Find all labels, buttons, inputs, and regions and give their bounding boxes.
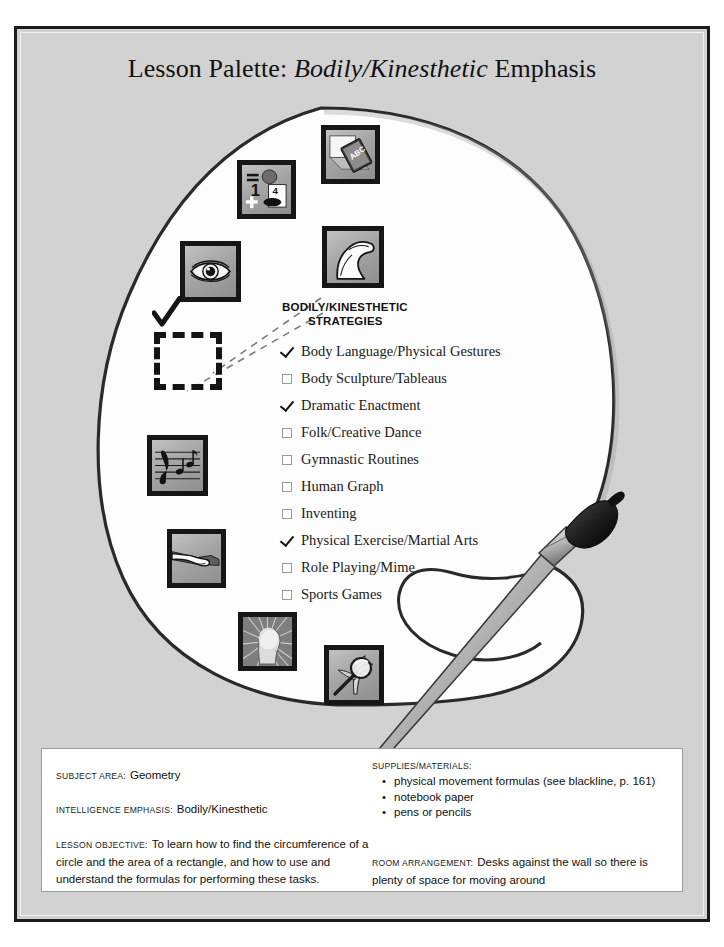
tile-interpersonal[interactable]	[167, 529, 226, 588]
lesson-palette-page: Lesson Palette: Bodily/Kinesthetic Empha…	[0, 0, 724, 947]
tile-intrapersonal[interactable]	[238, 612, 297, 671]
strategy-label: Inventing	[301, 505, 357, 522]
strategy-row[interactable]: Physical Exercise/Martial Arts	[282, 527, 522, 554]
intelligence-emphasis-value: Bodily/Kinesthetic	[177, 803, 268, 815]
supplies-item: physical movement formulas (see blacklin…	[394, 774, 672, 790]
tile-bodily-kinesthetic[interactable]	[322, 226, 384, 288]
strategies-list: Body Language/Physical GesturesBody Scul…	[282, 338, 522, 608]
strategy-row[interactable]: Human Graph	[282, 473, 522, 500]
empty-strategy-placeholder-box[interactable]	[154, 332, 222, 390]
strategy-label: Human Graph	[301, 478, 384, 495]
intelligence-emphasis-field: INTELLIGENCE EMPHASIS: Bodily/Kinestheti…	[56, 799, 268, 817]
strategies-panel: BODILY/KINESTHETIC STRATEGIES Body Langu…	[282, 300, 522, 608]
subject-area-label: SUBJECT AREA:	[56, 771, 126, 781]
tile-naturalist[interactable]	[324, 645, 384, 705]
strategy-checkbox[interactable]	[282, 428, 292, 438]
subject-area-value: Geometry	[130, 769, 181, 781]
strategy-row[interactable]: Body Sculpture/Tableaus	[282, 365, 522, 392]
abc-book-icon: ABC	[326, 130, 375, 179]
room-arrangement-label: ROOM ARRANGEMENT:	[372, 858, 473, 868]
flexed-arm-icon	[327, 231, 379, 283]
strategy-row[interactable]: Dramatic Enactment	[282, 392, 522, 419]
strategy-checkbox[interactable]	[282, 509, 292, 519]
strategies-heading-line2: STRATEGIES	[282, 314, 522, 328]
tile-musical-rhythmic[interactable]	[147, 435, 208, 496]
strategy-row[interactable]: Role Playing/Mime	[282, 554, 522, 581]
strategy-row[interactable]: Gymnastic Routines	[282, 446, 522, 473]
strategy-label: Body Sculpture/Tableaus	[301, 370, 447, 387]
subject-area-field: SUBJECT AREA: Geometry	[56, 765, 180, 783]
room-arrangement-field: ROOM ARRANGEMENT: Desks against the wall…	[372, 853, 672, 888]
math-symbols-icon: 1 4	[242, 165, 291, 214]
lesson-objective-field: LESSON OBJECTIVE: To learn how to find t…	[56, 835, 376, 887]
strategy-checkbox-checked[interactable]	[282, 347, 292, 357]
tile-verbal-linguistic[interactable]: ABC	[321, 125, 380, 184]
strategy-row[interactable]: Inventing	[282, 500, 522, 527]
supplies-materials-list: physical movement formulas (see blacklin…	[372, 774, 672, 821]
supplies-materials-label: SUPPLIES/MATERIALS:	[372, 761, 672, 771]
supplies-item: notebook paper	[394, 790, 672, 806]
strategy-row[interactable]: Body Language/Physical Gestures	[282, 338, 522, 365]
strategy-checkbox-checked[interactable]	[282, 536, 292, 546]
tile-visual-spatial[interactable]	[180, 241, 241, 302]
strategy-checkbox[interactable]	[282, 482, 292, 492]
strategies-heading-line1: BODILY/KINESTHETIC	[282, 301, 408, 313]
strategy-label: Body Language/Physical Gestures	[301, 343, 501, 360]
supplies-item: pens or pencils	[394, 805, 672, 821]
lesson-info-panel: SUBJECT AREA: Geometry INTELLIGENCE EMPH…	[41, 748, 683, 892]
music-staff-icon	[152, 440, 203, 491]
selected-checkmark-icon	[152, 296, 182, 330]
strategy-label: Physical Exercise/Martial Arts	[301, 532, 478, 549]
radiant-head-icon	[243, 617, 292, 666]
strategies-heading: BODILY/KINESTHETIC STRATEGIES	[282, 300, 522, 328]
strategy-label: Folk/Creative Dance	[301, 424, 421, 441]
lesson-objective-label: LESSON OBJECTIVE:	[56, 840, 148, 850]
strategy-checkbox[interactable]	[282, 590, 292, 600]
strategy-checkbox[interactable]	[282, 374, 292, 384]
eye-icon	[185, 246, 236, 297]
svg-text:4: 4	[272, 185, 278, 196]
tile-logical-mathematical[interactable]: 1 4	[237, 160, 296, 219]
strategy-checkbox[interactable]	[282, 455, 292, 465]
strategy-label: Sports Games	[301, 586, 382, 603]
strategy-row[interactable]: Folk/Creative Dance	[282, 419, 522, 446]
strategy-checkbox[interactable]	[282, 563, 292, 573]
intelligence-emphasis-label: INTELLIGENCE EMPHASIS:	[56, 805, 173, 815]
strategy-row[interactable]: Sports Games	[282, 581, 522, 608]
strategy-checkbox-checked[interactable]	[282, 401, 292, 411]
strategy-label: Role Playing/Mime	[301, 559, 415, 576]
strategy-label: Dramatic Enactment	[301, 397, 421, 414]
handshake-icon	[172, 534, 221, 583]
magnifier-leaf-icon	[329, 650, 379, 700]
supplies-materials-field: SUPPLIES/MATERIALS: physical movement fo…	[372, 761, 672, 821]
strategy-label: Gymnastic Routines	[301, 451, 419, 468]
